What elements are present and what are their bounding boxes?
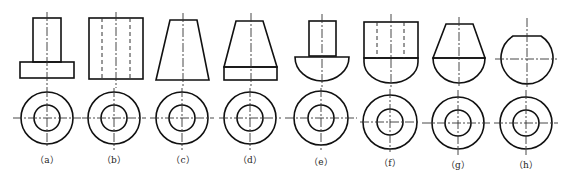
figure-h: （h） — [494, 18, 558, 170]
top-view-g — [422, 90, 490, 155]
front-view-e — [295, 14, 349, 88]
figure-a: （a） — [13, 12, 81, 165]
front-view-c — [156, 13, 209, 88]
label-b: （b） — [102, 155, 126, 165]
figure-c: （c） — [150, 13, 214, 165]
figure-b: （b） — [82, 12, 146, 165]
label-h: （h） — [514, 160, 538, 170]
top-view-c — [150, 88, 214, 150]
figure-f: （f） — [360, 14, 420, 168]
engineering-drawing: （a） （b） （c） — [0, 0, 567, 180]
figure-d: （d） — [219, 13, 281, 165]
top-view-b — [82, 88, 146, 150]
figure-e: （e） — [285, 14, 357, 167]
label-f: （f） — [379, 158, 400, 168]
label-e: （e） — [309, 157, 332, 167]
top-view-e — [285, 88, 357, 150]
front-view-d — [224, 13, 277, 88]
label-d: （d） — [238, 155, 262, 165]
base-cylinder — [224, 67, 277, 80]
frustum-outline — [224, 21, 277, 67]
top-view-h — [494, 90, 558, 155]
front-view-f — [364, 14, 418, 88]
top-view-f — [360, 89, 420, 152]
label-a: （a） — [35, 155, 58, 165]
upper-cylinder — [309, 21, 336, 56]
frustum-outline — [156, 20, 209, 80]
top-view-a — [13, 88, 81, 148]
front-view-b — [89, 12, 143, 88]
label-c: （c） — [171, 155, 194, 165]
top-view-d — [219, 88, 281, 150]
front-view-h — [495, 18, 557, 88]
front-view-g — [433, 17, 485, 88]
front-view-a — [20, 12, 74, 88]
label-g: （g） — [446, 160, 470, 170]
figure-g: （g） — [422, 17, 490, 170]
